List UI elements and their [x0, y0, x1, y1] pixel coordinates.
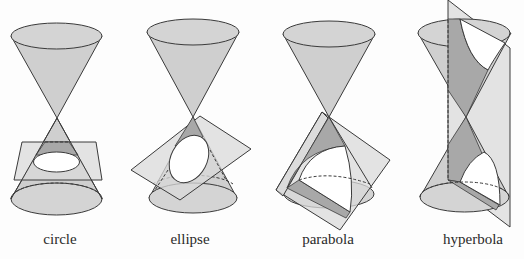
circle-panel	[11, 23, 102, 215]
parabola-panel	[276, 21, 390, 230]
ellipse-panel	[131, 19, 251, 213]
label-hyperbola: hyperbola	[413, 231, 524, 248]
hyperbola-panel	[418, 0, 511, 227]
upper-cone-rim	[283, 21, 375, 47]
circle-section	[34, 152, 80, 172]
upper-cone-rim	[147, 19, 239, 45]
lower-cone-base	[11, 183, 102, 215]
conic-sections-diagram: circle ellipse parabola hyperbola	[0, 0, 524, 259]
label-parabola: parabola	[268, 231, 388, 248]
label-circle: circle	[0, 231, 120, 248]
label-ellipse: ellipse	[130, 231, 250, 248]
diagram-canvas	[0, 0, 524, 259]
upper-cone-rim	[11, 23, 102, 49]
